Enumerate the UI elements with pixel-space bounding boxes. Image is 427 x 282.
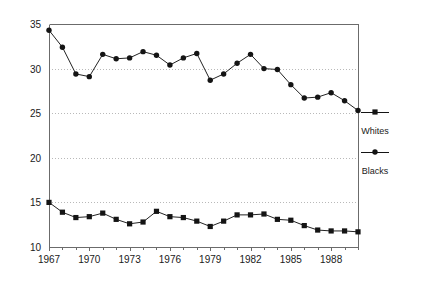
line-chart: 101520253035 196719701973197619791982198… — [0, 0, 427, 282]
x-tick-label-1973: 1973 — [118, 254, 141, 265]
series-blacks — [46, 28, 360, 114]
data-point-blacks-1968 — [60, 44, 65, 49]
data-point-whites-1976 — [167, 214, 172, 219]
y-tick-label-20: 20 — [30, 153, 42, 164]
data-point-blacks-1978 — [194, 51, 199, 56]
data-point-whites-1975 — [154, 209, 159, 214]
data-point-whites-1986 — [302, 223, 307, 228]
axes — [50, 25, 359, 248]
legend: WhitesBlacks — [361, 109, 389, 176]
y-tick-label-25: 25 — [30, 108, 42, 119]
y-tick-label-15: 15 — [30, 197, 42, 208]
data-point-blacks-1969 — [73, 71, 78, 76]
y-tick-label-35: 35 — [30, 19, 42, 30]
data-point-blacks-1983 — [261, 66, 266, 71]
x-tick-label-1988: 1988 — [320, 254, 343, 265]
data-point-blacks-1985 — [288, 82, 293, 87]
line-blacks — [49, 30, 358, 110]
data-point-whites-1973 — [127, 221, 132, 226]
data-point-whites-1972 — [114, 217, 119, 222]
data-point-blacks-1971 — [100, 52, 105, 57]
data-point-whites-1967 — [46, 200, 51, 205]
data-point-whites-1987 — [315, 227, 320, 232]
data-point-blacks-1974 — [140, 49, 145, 54]
data-point-blacks-1975 — [154, 53, 159, 58]
data-point-blacks-1970 — [87, 74, 92, 79]
data-point-whites-1985 — [288, 218, 293, 223]
data-point-whites-1989 — [342, 228, 347, 233]
x-tick-label-1970: 1970 — [78, 254, 101, 265]
line-whites — [49, 202, 358, 231]
data-point-whites-1981 — [234, 212, 239, 217]
legend-label-blacks: Blacks — [362, 166, 389, 176]
data-point-whites-1974 — [140, 219, 145, 224]
data-point-whites-1978 — [194, 219, 199, 224]
data-point-whites-1968 — [60, 210, 65, 215]
data-point-blacks-1972 — [113, 56, 118, 61]
data-point-whites-1977 — [181, 215, 186, 220]
series-whites — [46, 200, 360, 235]
data-point-blacks-1979 — [208, 78, 213, 83]
data-point-whites-1988 — [329, 228, 334, 233]
data-point-blacks-1984 — [275, 67, 280, 72]
data-point-blacks-1981 — [234, 61, 239, 66]
legend-marker-blacks — [372, 149, 377, 154]
data-point-blacks-1977 — [181, 55, 186, 60]
data-point-whites-1990 — [355, 229, 360, 234]
chart-screenshot: 101520253035 196719701973197619791982198… — [0, 0, 427, 282]
data-point-whites-1979 — [208, 224, 213, 229]
data-point-whites-1970 — [87, 214, 92, 219]
x-tick-label-1985: 1985 — [280, 254, 303, 265]
data-point-whites-1980 — [221, 219, 226, 224]
data-point-blacks-1987 — [315, 94, 320, 99]
y-tick-label-30: 30 — [30, 64, 42, 75]
x-tick-label-1982: 1982 — [239, 254, 262, 265]
data-point-blacks-1976 — [167, 62, 172, 67]
legend-marker-whites — [372, 109, 377, 114]
x-axis-tick-labels: 19671970197319761979198219851988 — [38, 254, 343, 265]
data-point-blacks-1973 — [127, 55, 132, 60]
legend-label-whites: Whites — [361, 126, 389, 136]
data-point-blacks-1982 — [248, 52, 253, 57]
y-axis-tick-labels: 101520253035 — [30, 19, 42, 253]
y-tick-label-10: 10 — [30, 242, 42, 253]
data-point-whites-1984 — [275, 217, 280, 222]
data-point-whites-1983 — [261, 211, 266, 216]
data-point-whites-1971 — [100, 211, 105, 216]
data-point-blacks-1989 — [342, 98, 347, 103]
grid-lines — [49, 25, 358, 203]
data-point-blacks-1990 — [355, 108, 360, 113]
data-point-blacks-1967 — [46, 28, 51, 33]
x-tick-label-1967: 1967 — [38, 254, 61, 265]
data-point-whites-1969 — [73, 215, 78, 220]
data-point-whites-1982 — [248, 212, 253, 217]
data-point-blacks-1980 — [221, 71, 226, 76]
data-point-blacks-1988 — [328, 90, 333, 95]
x-tick-label-1979: 1979 — [199, 254, 222, 265]
data-point-blacks-1986 — [302, 95, 307, 100]
x-tick-label-1976: 1976 — [159, 254, 182, 265]
